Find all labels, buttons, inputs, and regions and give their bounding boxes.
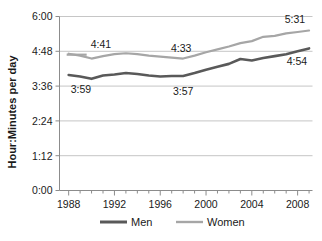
point-label-women-end: 5:31 [285, 13, 306, 25]
point-label-men-mid: 3:57 [173, 85, 194, 97]
x-tick-label-2008: 2008 [286, 198, 310, 210]
chart-canvas: 0:001:122:243:364:486:00 198819921996200… [0, 0, 322, 241]
y-tick-label-4:48: 4:48 [32, 45, 53, 57]
point-label-women-start: 4:41 [91, 38, 112, 50]
y-tick-label-0:00: 0:00 [32, 184, 53, 196]
legend-label-men: Men [131, 216, 152, 228]
point-label-men-end: 4:54 [287, 55, 308, 67]
point-label-women-mid: 4:33 [171, 42, 192, 54]
point-label-men-start: 3:59 [71, 83, 92, 95]
y-tick-label-6:00: 6:00 [32, 10, 53, 22]
y-axis-title: Hour:Minutes per day [6, 55, 18, 169]
y-tick-label-3:36: 3:36 [32, 80, 53, 92]
y-tick-label-2:24: 2:24 [32, 115, 53, 127]
x-tick-label-2000: 2000 [194, 198, 218, 210]
x-tick-label-1996: 1996 [149, 198, 173, 210]
legend-label-women: Women [207, 216, 245, 228]
x-tick-label-1992: 1992 [103, 198, 127, 210]
x-tick-label-2004: 2004 [240, 198, 264, 210]
x-tick-label-1988: 1988 [57, 198, 81, 210]
line-chart: 0:001:122:243:364:486:00 198819921996200… [0, 0, 322, 241]
y-tick-label-1:12: 1:12 [32, 150, 53, 162]
